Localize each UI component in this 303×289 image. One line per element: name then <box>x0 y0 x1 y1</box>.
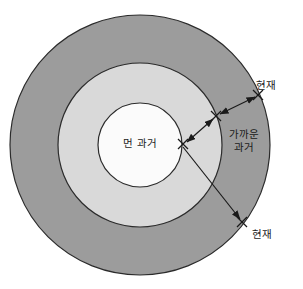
figure-root: 먼 과거 가까운 과거 현재 현재 <box>0 0 303 289</box>
label-distant-past: 먼 과거 <box>104 137 176 150</box>
label-near-past: 가까운 과거 <box>215 128 273 153</box>
label-present-bottom: 현재 <box>252 228 296 241</box>
label-present-top: 현재 <box>256 79 300 92</box>
